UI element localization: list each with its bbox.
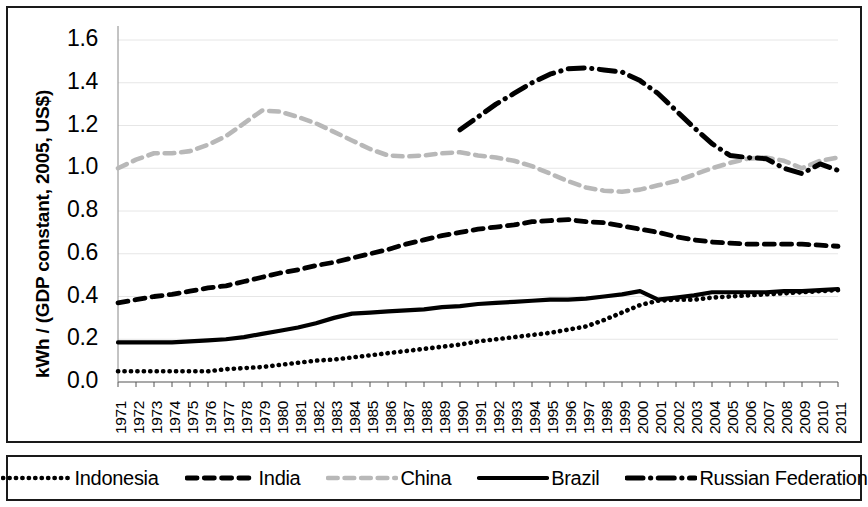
legend-label: Indonesia xyxy=(75,467,159,490)
legend-label: Russian Federation xyxy=(699,467,867,490)
legend-entry[interactable]: China xyxy=(326,467,451,490)
legend-label: Brazil xyxy=(551,467,599,490)
legend-swatch-brazil xyxy=(477,469,549,487)
series-line-china xyxy=(118,111,838,192)
legend-swatch-china xyxy=(326,469,398,487)
plot-canvas xyxy=(0,0,868,507)
legend-entry[interactable]: Brazil xyxy=(477,467,599,490)
legend-swatch-russian-federation xyxy=(625,469,697,487)
chart-legend: IndonesiaIndiaChinaBrazilRussian Federat… xyxy=(6,455,862,501)
chart-figure: kWh / (GDP constant, 2005, US$) 0.00.20.… xyxy=(0,0,868,507)
legend-entry[interactable]: Indonesia xyxy=(1,467,159,490)
legend-swatch-indonesia xyxy=(1,469,73,487)
legend-entry[interactable]: Russian Federation xyxy=(625,467,867,490)
legend-swatch-india xyxy=(185,469,257,487)
legend-entry[interactable]: India xyxy=(185,467,301,490)
legend-label: India xyxy=(259,467,301,490)
series-line-russian-federation xyxy=(460,68,838,174)
chart-area: kWh / (GDP constant, 2005, US$) 0.00.20.… xyxy=(0,0,868,507)
legend-label: China xyxy=(400,467,451,490)
